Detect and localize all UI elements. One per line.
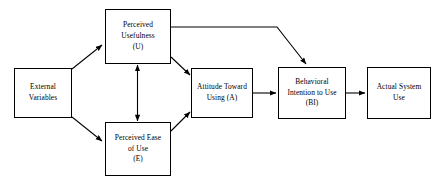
node-external-variables-label: External Variables (27, 82, 59, 103)
node-perceived-usefulness[interactable]: Perceived Usefulness (U) (105, 9, 171, 64)
node-perceived-ease-of-use-label: Perceived Ease of Use (E) (113, 133, 163, 165)
node-external-variables[interactable]: External Variables (14, 68, 72, 118)
edge-external-to-ease-of-use (72, 117, 102, 141)
edge-usefulness-to-behavioral-intention (171, 27, 306, 64)
edge-usefulness-to-attitude (171, 57, 190, 75)
node-perceived-usefulness-label: Perceived Usefulness (U) (119, 20, 156, 52)
node-actual-system-use[interactable]: Actual System Use (367, 67, 431, 119)
node-behavioral-intention-to-use-label: Behavioral Intention to Use (BI) (285, 77, 338, 109)
edge-external-to-usefulness (72, 45, 102, 69)
node-actual-system-use-label: Actual System Use (375, 82, 424, 103)
node-attitude-toward-using[interactable]: Attitude Toward Using (A) (191, 68, 253, 118)
edge-ease-of-use-to-attitude (171, 112, 190, 131)
node-behavioral-intention-to-use[interactable]: Behavioral Intention to Use (BI) (278, 67, 346, 119)
node-perceived-ease-of-use[interactable]: Perceived Ease of Use (E) (105, 122, 171, 176)
node-attitude-toward-using-label: Attitude Toward Using (A) (195, 82, 249, 103)
tam-diagram: External Variables Perceived Usefulness … (0, 0, 442, 188)
